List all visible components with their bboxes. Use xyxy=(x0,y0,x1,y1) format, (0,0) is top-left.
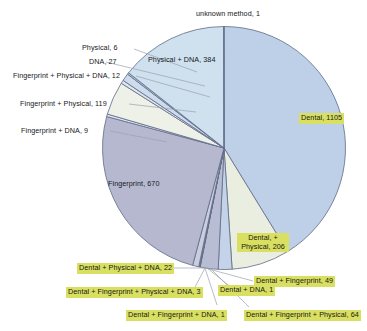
label-dental-fingerprint-dna: Dental + Fingerprint + DNA, 1 xyxy=(126,310,227,321)
label-dental-physical-dna: Dental + Physical + DNA, 22 xyxy=(77,263,174,274)
label-fingerprint: Fingerprint, 670 xyxy=(108,180,160,189)
label-dental-physical: Dental, +Physical, 206 xyxy=(237,233,289,252)
label-fingerprint-physical: Fingerprint + Physical, 119 xyxy=(20,100,107,109)
label-dental-physical-line2: Physical, 206 xyxy=(241,242,285,251)
label-dental: Dental, 1105 xyxy=(299,113,344,124)
pie-chart: unknown method, 1 Physical + DNA, 384 Ph… xyxy=(0,0,367,331)
label-dna: DNA, 27 xyxy=(89,58,117,67)
pie-slices xyxy=(103,26,346,269)
label-dental-fingerprint-physical-dna: Dental + Fingerprint + Physical + DNA, 3 xyxy=(66,287,203,298)
label-fingerprint-physical-dna: Fingerprint + Physical + DNA, 12 xyxy=(13,72,120,81)
label-physical: Physical, 6 xyxy=(82,44,118,53)
label-dental-fingerprint-physical: Dental + Fingerprint + Physical, 64 xyxy=(244,310,361,321)
label-dental-dna: Dental + DNA, 1 xyxy=(218,285,275,296)
label-unknown-method: unknown method, 1 xyxy=(196,10,260,19)
label-physical-dna: Physical + DNA, 384 xyxy=(148,56,215,65)
label-fingerprint-dna: Fingerprint + DNA, 9 xyxy=(21,127,88,136)
